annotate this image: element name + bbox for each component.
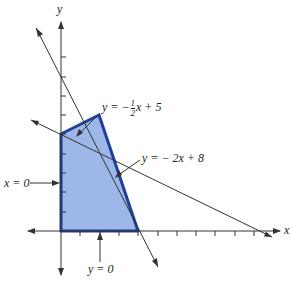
x-zero-label: x = 0 <box>4 176 29 191</box>
line2-label: y = − 2x + 8 <box>142 151 204 166</box>
line1-label: y = −12x + 5 <box>102 99 161 118</box>
graph <box>0 0 291 283</box>
feasible-region <box>61 115 138 231</box>
y-zero-label: y = 0 <box>88 262 113 277</box>
x-axis-label: x <box>284 223 289 238</box>
y-axis-label: y <box>57 2 62 17</box>
